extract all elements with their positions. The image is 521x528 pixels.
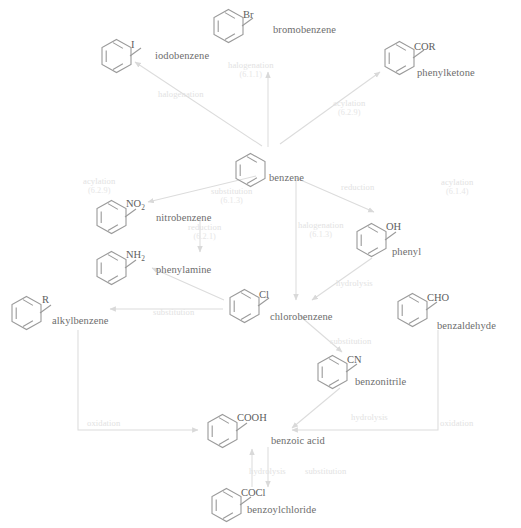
- reaction-label-substitution-nitro: substitution(6.1.3): [211, 186, 252, 206]
- reaction-type: reduction: [188, 222, 221, 232]
- substituent-benzoylchloride: COCl: [241, 487, 266, 498]
- compound-label-benzaldehyde: benzaldehyde: [437, 320, 496, 331]
- compound-label-benzene: benzene: [269, 172, 304, 183]
- reaction-label-hydrolysis-acyl: hydrolysis: [249, 466, 286, 476]
- reaction-code: (6.2.9): [83, 186, 115, 196]
- compound-label-phenylketone: phenylketone: [417, 67, 475, 78]
- compound-label-phenyl: phenyl: [392, 246, 421, 257]
- substituent-chlorobenzene: Cl: [259, 289, 269, 300]
- substituent-nitrobenzene: NO2: [126, 198, 145, 212]
- compound-label-phenylamine: phenylamine: [156, 264, 211, 275]
- reaction-label-oxidation-left: oxidation: [87, 418, 120, 428]
- reaction-label-hydrolysis-cn: hydrolysis: [351, 412, 388, 422]
- reaction-type: acylation: [83, 176, 115, 186]
- reaction-diagram-canvas: BrbromobenzeneIiodobenzeneCORphenylketon…: [0, 0, 521, 528]
- reaction-type: acylation: [441, 177, 473, 187]
- compound-label-benzoylchloride: benzoylchloride: [247, 504, 316, 515]
- compound-label-alkylbenzene: alkylbenzene: [52, 315, 109, 326]
- substituent-phenylketone: COR: [414, 41, 436, 52]
- compound-label-chlorobenzene: chlorobenzene: [270, 311, 333, 322]
- substituent-benzonitrile: CN: [347, 354, 362, 365]
- reaction-type: hydrolysis: [249, 466, 286, 476]
- reaction-type: oxidation: [87, 418, 120, 428]
- substituent-benzoic-acid: COOH: [237, 412, 267, 423]
- reaction-type: substitution: [305, 466, 346, 476]
- reaction-type: reduction: [341, 182, 374, 192]
- reaction-type: hydrolysis: [336, 278, 373, 288]
- reaction-code: (6.2.1): [188, 232, 221, 242]
- reaction-label-acylation-nitro: acylation(6.2.9): [83, 176, 115, 196]
- reaction-label-halogenation-i: halogenation: [158, 89, 204, 99]
- reaction-type: halogenation: [228, 60, 274, 70]
- reaction-label-acylation-ketone: acylation(6.2.9): [333, 98, 365, 118]
- reaction-label-reduction-amine: reduction(6.2.1): [188, 222, 221, 242]
- reaction-label-substitution-acyl: substitution: [305, 466, 346, 476]
- reaction-code: (6.1.3): [211, 196, 252, 206]
- reaction-label-substitution-cn: substitution: [330, 336, 371, 346]
- reaction-type: substitution: [330, 336, 371, 346]
- reaction-type: acylation: [333, 98, 365, 108]
- substituent-benzaldehyde: CHO: [427, 292, 449, 303]
- compound-label-iodobenzene: iodobenzene: [155, 50, 209, 61]
- substituent-phenylamine: NH2: [126, 249, 145, 263]
- substituent-phenyl: OH: [386, 221, 401, 232]
- substituent-alkylbenzene: R: [42, 294, 49, 305]
- reaction-type: hydrolysis: [351, 412, 388, 422]
- reaction-type: halogenation: [298, 220, 344, 230]
- reaction-label-halogenation-cl: halogenation(6.1.3): [298, 220, 344, 240]
- reaction-type: substitution: [211, 186, 252, 196]
- reaction-label-reduction-phenyl: reduction: [341, 182, 374, 192]
- reaction-label-hydrolysis-phenyl: hydrolysis: [336, 278, 373, 288]
- reaction-code: (6.2.9): [333, 108, 365, 118]
- compound-label-benzoic-acid: benzoic acid: [271, 435, 325, 446]
- reaction-label-oxidation-right: oxidation: [440, 418, 473, 428]
- reaction-type: halogenation: [158, 89, 204, 99]
- compound-label-benzonitrile: benzonitrile: [355, 376, 406, 387]
- reaction-code: (6.1.1): [228, 70, 274, 80]
- substituent-iodobenzene: I: [131, 39, 135, 50]
- reaction-type: substitution: [153, 307, 194, 317]
- reaction-label-acylation-right: acylation(6.1.4): [441, 177, 473, 197]
- compound-label-bromobenzene: bromobenzene: [273, 24, 336, 35]
- substituent-bromobenzene: Br: [243, 9, 254, 20]
- reaction-label-halogenation-br: halogenation(6.1.1): [228, 60, 274, 80]
- reaction-type: oxidation: [440, 418, 473, 428]
- reaction-label-substitution-alkyl: substitution: [153, 307, 194, 317]
- reaction-code: (6.1.3): [298, 230, 344, 240]
- reaction-code: (6.1.4): [441, 187, 473, 197]
